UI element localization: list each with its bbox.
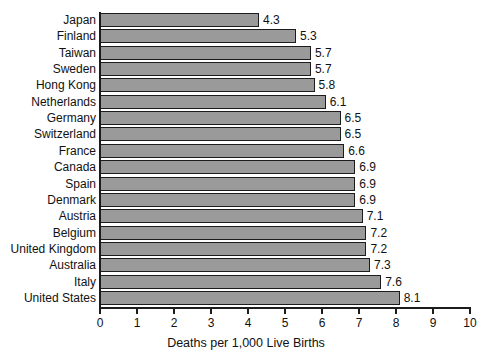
bar-value-label: 7.2 [370,225,387,241]
category-axis-labels: JapanFinlandTaiwanSwedenHong KongNetherl… [0,0,96,364]
bar-row[interactable]: 5.8 [100,78,470,92]
bar[interactable] [100,275,381,289]
category-label: Australia [0,258,96,272]
bar-row[interactable]: 6.5 [100,127,470,141]
bar-value-label: 7.3 [374,257,391,273]
x-tick-label: 10 [455,316,485,330]
bar[interactable] [100,29,296,43]
x-tick-label: 1 [122,316,152,330]
bar-row[interactable]: 7.1 [100,209,470,223]
x-tick-label: 9 [418,316,448,330]
bar-row[interactable]: 6.5 [100,111,470,125]
x-tick-label: 7 [344,316,374,330]
x-tick-label: 2 [159,316,189,330]
bar-row[interactable]: 4.3 [100,13,470,27]
bar-value-label: 4.3 [263,12,280,28]
bar[interactable] [100,95,326,109]
bar-row[interactable]: 7.3 [100,258,470,272]
category-label: Finland [0,29,96,43]
bar-value-label: 6.9 [359,192,376,208]
bar-value-label: 5.7 [315,61,332,77]
category-label: Spain [0,177,96,191]
x-tick-label: 6 [307,316,337,330]
x-tick-mark [321,308,323,314]
bar-value-label: 5.3 [300,28,317,44]
bar[interactable] [100,209,363,223]
bar[interactable] [100,226,366,240]
x-tick-mark [99,308,101,314]
bar-value-label: 6.5 [345,110,362,126]
bar-row[interactable]: 7.6 [100,275,470,289]
x-tick-mark [210,308,212,314]
bar-row[interactable]: 5.7 [100,46,470,60]
bar-row[interactable]: 5.7 [100,62,470,76]
category-label: Canada [0,160,96,174]
x-tick-mark [358,308,360,314]
category-label: Germany [0,111,96,125]
category-label: Netherlands [0,95,96,109]
bar-row[interactable]: 5.3 [100,29,470,43]
bar[interactable] [100,193,355,207]
bar-value-label: 8.1 [404,290,421,306]
x-tick-mark [395,308,397,314]
bar[interactable] [100,160,355,174]
bar-row[interactable]: 6.6 [100,144,470,158]
x-axis-title: Deaths per 1,000 Live Births [0,336,492,351]
x-tick-mark [284,308,286,314]
infant-mortality-bar-chart: JapanFinlandTaiwanSwedenHong KongNetherl… [0,0,492,364]
x-tick-label: 0 [85,316,115,330]
bar[interactable] [100,177,355,191]
category-label: Belgium [0,226,96,240]
bar-row[interactable]: 6.9 [100,193,470,207]
bar[interactable] [100,111,341,125]
category-label: Denmark [0,193,96,207]
bar[interactable] [100,13,259,27]
x-tick-label: 3 [196,316,226,330]
x-tick-label: 8 [381,316,411,330]
bar[interactable] [100,78,315,92]
category-label: Italy [0,275,96,289]
category-label: United Kingdom [0,242,96,256]
bar[interactable] [100,242,366,256]
category-label: Hong Kong [0,78,96,92]
x-tick-mark [173,308,175,314]
bar-value-label: 6.6 [348,143,365,159]
bar-row[interactable]: 6.9 [100,160,470,174]
category-label: Taiwan [0,46,96,60]
bar-value-label: 7.2 [370,241,387,257]
bar-value-label: 5.8 [319,77,336,93]
category-label: Austria [0,209,96,223]
category-label: France [0,144,96,158]
bar-row[interactable]: 7.2 [100,242,470,256]
bar[interactable] [100,46,311,60]
bar-value-label: 6.1 [330,94,347,110]
bar[interactable] [100,291,400,305]
bar-value-label: 7.6 [385,274,402,290]
category-label: Japan [0,13,96,27]
bar-row[interactable]: 6.9 [100,177,470,191]
bar[interactable] [100,258,370,272]
bar[interactable] [100,62,311,76]
bar-row[interactable]: 8.1 [100,291,470,305]
x-tick-mark [469,308,471,314]
bar-value-label: 6.5 [345,126,362,142]
x-tick-mark [136,308,138,314]
bar[interactable] [100,144,344,158]
bar-value-label: 6.9 [359,159,376,175]
x-tick-label: 4 [233,316,263,330]
bar-row[interactable]: 7.2 [100,226,470,240]
x-tick-mark [247,308,249,314]
bar-row[interactable]: 6.1 [100,95,470,109]
category-label: Sweden [0,62,96,76]
x-tick-label: 5 [270,316,300,330]
bar-value-label: 7.1 [367,208,384,224]
x-tick-mark [432,308,434,314]
bar-value-label: 6.9 [359,176,376,192]
bar[interactable] [100,127,341,141]
bar-value-label: 5.7 [315,45,332,61]
category-label: United States [0,291,96,305]
category-label: Switzerland [0,127,96,141]
